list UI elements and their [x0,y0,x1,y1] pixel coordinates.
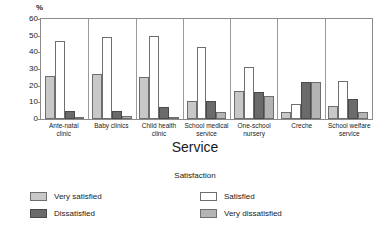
bar [216,112,226,119]
bar [159,107,169,119]
bar-group-bars [187,19,227,119]
legend-swatch [30,209,47,218]
bar-group [41,19,88,119]
bar-chart: % 0102030405060 Ante-natal clinicBaby cl… [0,0,390,230]
bar [301,82,311,119]
x-axis-title: Service [0,140,390,154]
bar [254,92,264,119]
legend-item: Very satisfied [30,192,200,201]
bar [122,116,132,119]
legend-title: Satisfaction [0,172,390,180]
bar [55,41,65,119]
y-axis-tick-label: 20 [29,82,41,90]
bar-group [325,19,372,119]
chart-legend: Very satisfiedSatisfiedDissatisfiedVery … [30,188,360,222]
legend-item: Satisfied [200,192,360,201]
bar [206,101,216,119]
bar [92,74,102,119]
legend-label: Very satisfied [54,193,102,201]
legend-label: Dissatisfied [54,210,95,218]
bar [112,111,122,119]
bar-group [88,19,135,119]
y-axis-tick-label: 30 [29,65,41,73]
bar [264,96,274,119]
bar [348,99,358,119]
bar-group-bars [234,19,274,119]
legend-swatch [30,192,47,201]
bar-group-bars [281,19,321,119]
bar [187,101,197,119]
y-axis-tick-label: 60 [29,15,41,23]
bar-group [183,19,230,119]
bar [328,106,338,119]
bar-groups [41,19,372,119]
bar [149,36,159,119]
bar-group-bars [45,19,85,119]
bar [139,77,149,119]
y-axis-tick-label: 50 [29,32,41,40]
plot-area: 0102030405060 [40,18,373,120]
bar-group [136,19,183,119]
bar [234,91,244,119]
y-axis-tick-label: 10 [29,98,41,106]
legend-swatch [200,192,217,201]
bar-group-bars [92,19,132,119]
bar [169,117,179,119]
bar-group [277,19,324,119]
bar [244,67,254,119]
bar [291,104,301,119]
bar [281,112,291,119]
bar-group-bars [328,19,368,119]
legend-swatch [200,209,217,218]
bar [311,82,321,119]
legend-item: Dissatisfied [30,209,200,218]
legend-item: Very dissatisfied [200,209,360,218]
legend-label: Satisfied [224,193,255,201]
bar-group-bars [139,19,179,119]
legend-label: Very dissatisfied [224,210,282,218]
bar [45,76,55,119]
bar [338,81,348,119]
bar [358,112,368,119]
bar [65,111,75,119]
bar [102,37,112,119]
bar-group [230,19,277,119]
bar [197,47,207,119]
y-axis-unit-label: % [36,4,43,12]
bar [75,117,85,119]
y-axis-tick-label: 40 [29,48,41,56]
